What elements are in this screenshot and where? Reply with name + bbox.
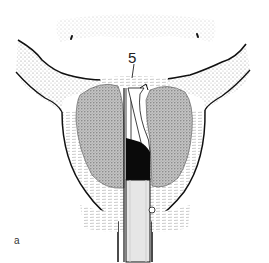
panel-label: a <box>14 236 20 246</box>
bladder-outline <box>56 14 215 42</box>
anatomical-illustration: 5 a <box>0 0 269 263</box>
callout-number-5: 5 <box>128 50 136 65</box>
